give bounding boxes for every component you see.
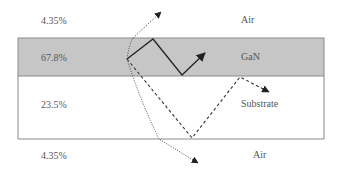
substrate-percent: 23.5%	[41, 99, 67, 110]
gan-percent: 67.8%	[41, 52, 67, 63]
bottom-air-percent: 4.35%	[41, 150, 67, 161]
gan-label: GaN	[241, 51, 260, 62]
top-air-label: Air	[241, 14, 254, 25]
substrate-label: Substrate	[241, 98, 278, 109]
bottom-air-label: Air	[253, 149, 266, 160]
top-air-percent: 4.35%	[41, 15, 67, 26]
